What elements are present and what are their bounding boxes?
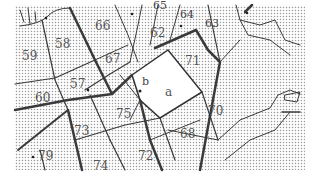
parcel-label-65: 65: [153, 0, 167, 12]
parcel-label-64: 64: [180, 8, 194, 21]
parcel-label-70: 70: [208, 104, 223, 118]
parcel-label-59: 59: [22, 49, 37, 63]
parcel-label-b: b: [142, 75, 149, 88]
parcel-label-63: 63: [205, 17, 219, 30]
parcel-label-67: 67: [105, 52, 120, 66]
parcel-label-74: 74: [93, 159, 109, 173]
parcel-label-72: 72: [138, 149, 153, 163]
parcel-label-58: 58: [55, 37, 70, 51]
parcel-label-57: 57: [70, 77, 85, 91]
parcel-label-68: 68: [180, 127, 195, 141]
parcel-map: 59 58 66 65 64 63 62 67 57 60 71 a b 75 …: [0, 0, 325, 177]
parcel-label-60: 60: [35, 91, 50, 105]
parcel-label-75: 75: [116, 107, 131, 121]
parcel-label-62: 62: [150, 26, 165, 40]
parcel-label-66: 66: [95, 19, 110, 33]
parcel-label-73: 73: [74, 124, 89, 138]
parcel-label-79: 79: [38, 149, 53, 163]
parcel-label-a: a: [165, 85, 172, 99]
parcel-label-71: 71: [185, 54, 200, 68]
